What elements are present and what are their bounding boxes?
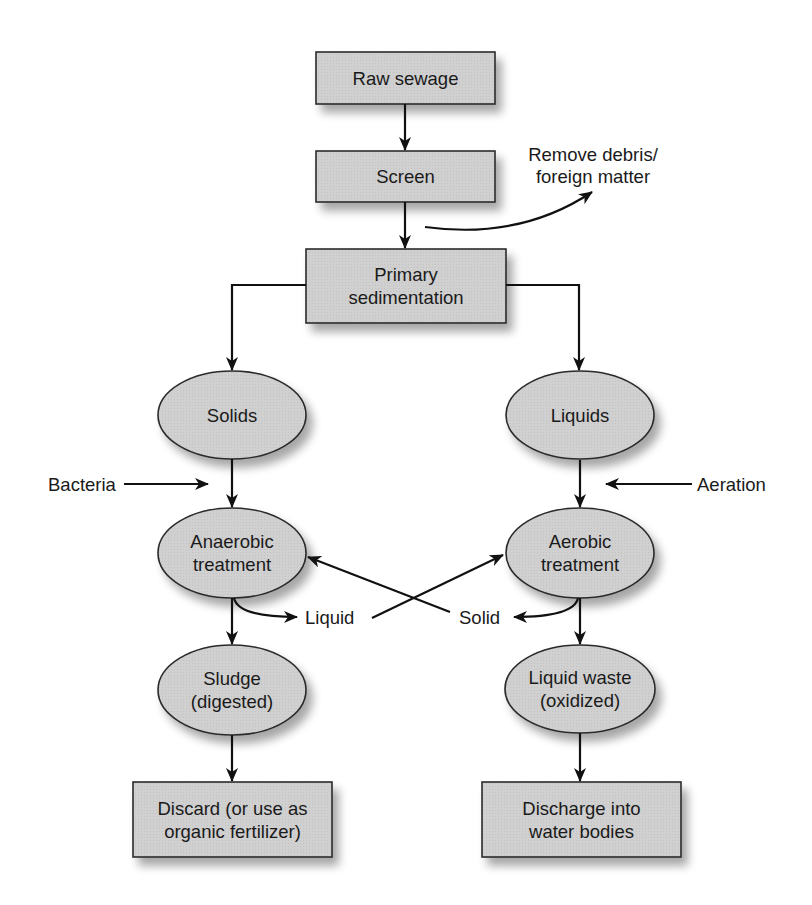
aerobic-text-line1: Aerobic xyxy=(549,530,612,553)
solid-label: Solid xyxy=(459,607,500,629)
arrow-anaerobic-to-liquid xyxy=(234,598,297,617)
discard-label: Discard (or use as organic fertilizer) xyxy=(133,782,332,857)
solids-text: Solids xyxy=(207,404,257,427)
bacteria-label: Bacteria xyxy=(48,474,116,496)
sewage-treatment-flowchart: Raw sewage Screen Primary sedimentation … xyxy=(0,0,812,905)
aerobic-label: Aerobic treatment xyxy=(506,508,654,598)
liquid-label: Liquid xyxy=(305,607,354,629)
flowchart-canvas xyxy=(0,0,812,905)
arrow-aerobic-to-solid xyxy=(514,598,578,617)
liquid-waste-text-line2: (oxidized) xyxy=(540,689,620,712)
discharge-text-line1: Discharge into xyxy=(522,797,640,820)
screen-text: Screen xyxy=(376,165,435,188)
discard-text-line1: Discard (or use as xyxy=(157,797,307,820)
sludge-text-line1: Sludge xyxy=(203,667,261,690)
aeration-label: Aeration xyxy=(697,474,766,496)
liquids-label: Liquids xyxy=(506,371,654,459)
primary-text-line2: sedimentation xyxy=(348,286,463,309)
anaerobic-text-line1: Anaerobic xyxy=(190,530,273,553)
primary-text-line1: Primary xyxy=(374,263,438,286)
raw-sewage-label: Raw sewage xyxy=(316,52,495,104)
sludge-label: Sludge (digested) xyxy=(158,645,306,735)
solids-label: Solids xyxy=(158,371,306,459)
arrow-primary-to-solids xyxy=(232,285,306,370)
liquid-waste-label: Liquid waste (oxidized) xyxy=(505,645,655,733)
raw-sewage-text: Raw sewage xyxy=(353,67,459,90)
anaerobic-text-line2: treatment xyxy=(193,553,271,576)
discard-text-line2: organic fertilizer) xyxy=(164,820,301,843)
primary-sedimentation-label: Primary sedimentation xyxy=(306,249,506,323)
discharge-text-line2: water bodies xyxy=(529,820,634,843)
remove-debris-line1: Remove debris/ xyxy=(518,144,668,166)
liquids-text: Liquids xyxy=(551,404,610,427)
screen-label: Screen xyxy=(316,151,495,202)
remove-debris-line2: foreign matter xyxy=(518,166,668,188)
discharge-label: Discharge into water bodies xyxy=(482,782,681,857)
aerobic-text-line2: treatment xyxy=(541,553,619,576)
sludge-text-line2: (digested) xyxy=(191,690,273,713)
anaerobic-label: Anaerobic treatment xyxy=(158,508,306,598)
liquid-waste-text-line1: Liquid waste xyxy=(529,666,632,689)
arrow-primary-to-liquids xyxy=(506,285,579,370)
remove-debris-label: Remove debris/ foreign matter xyxy=(518,144,668,188)
arrow-solid-to-anaerobic xyxy=(308,557,450,612)
